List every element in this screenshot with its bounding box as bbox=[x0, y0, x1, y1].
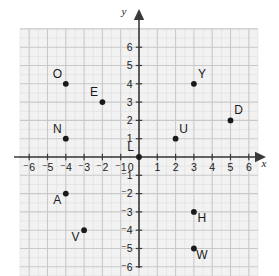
y-tick-label: ⁻4 bbox=[121, 224, 133, 236]
coordinate-plane-figure: ⁻6⁻5⁻4⁻3⁻2⁻1123456654321⁻1⁻2⁻3⁻4⁻5⁻60 xy… bbox=[0, 0, 279, 276]
point-label: V bbox=[72, 230, 80, 244]
y-tick-label: 4 bbox=[127, 78, 133, 90]
point-marker bbox=[191, 81, 197, 87]
y-tick-label: ⁻3 bbox=[121, 206, 133, 218]
x-tick-label: ⁻6 bbox=[23, 161, 35, 173]
x-tick-label: 2 bbox=[173, 161, 179, 173]
point-label: W bbox=[196, 248, 208, 262]
point-label: D bbox=[234, 103, 243, 117]
x-tick-label: 6 bbox=[246, 161, 252, 173]
x-tick-label: ⁻5 bbox=[42, 161, 54, 173]
origin-tick-label: 0 bbox=[128, 161, 134, 173]
point-marker bbox=[228, 118, 234, 124]
point-label: N bbox=[53, 122, 62, 136]
point-label: A bbox=[53, 193, 61, 207]
x-tick-label: ⁻4 bbox=[60, 161, 72, 173]
point-marker bbox=[63, 191, 69, 197]
point-label: O bbox=[53, 67, 62, 81]
coordinate-plane-svg: ⁻6⁻5⁻4⁻3⁻2⁻1123456654321⁻1⁻2⁻3⁻4⁻5⁻60 xy… bbox=[0, 0, 279, 276]
x-tick-label: 5 bbox=[228, 161, 234, 173]
y-tick-label: 6 bbox=[127, 41, 133, 53]
y-tick-label: 3 bbox=[127, 96, 133, 108]
x-tick-label: ⁻2 bbox=[96, 161, 108, 173]
point-label: L bbox=[127, 140, 134, 154]
point-marker bbox=[173, 136, 179, 142]
y-tick-label: 2 bbox=[127, 114, 133, 126]
point-marker bbox=[136, 154, 142, 160]
y-tick-label: ⁻2 bbox=[121, 187, 133, 199]
point-label: E bbox=[90, 85, 98, 99]
point-marker bbox=[191, 209, 197, 215]
point-marker bbox=[63, 81, 69, 87]
point-label: U bbox=[179, 122, 188, 136]
point-label: H bbox=[198, 211, 207, 225]
y-tick-label: ⁻5 bbox=[121, 242, 133, 254]
y-axis-title: y bbox=[121, 5, 127, 17]
point-marker bbox=[81, 227, 87, 233]
point-marker bbox=[63, 136, 69, 142]
x-tick-label: ⁻3 bbox=[78, 161, 90, 173]
point-label: Y bbox=[198, 67, 206, 81]
x-tick-label: 3 bbox=[191, 161, 197, 173]
x-axis-title: x bbox=[261, 157, 267, 169]
point-marker bbox=[100, 99, 106, 105]
x-tick-label: 1 bbox=[154, 161, 160, 173]
y-tick-label: ⁻6 bbox=[121, 261, 133, 273]
y-tick-label: 5 bbox=[127, 59, 133, 71]
x-tick-label: 4 bbox=[209, 161, 215, 173]
